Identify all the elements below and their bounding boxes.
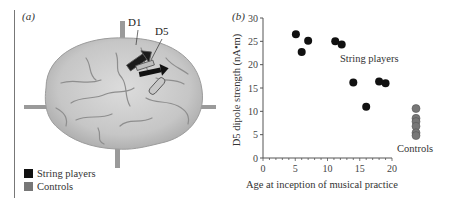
x-tick-label: 10 (323, 163, 333, 174)
dipole-label-d1: D1 (128, 16, 141, 28)
chart-canvas: 05101520253005101520 D5 dipole strength … (226, 0, 452, 200)
panel-divider (14, 10, 15, 198)
annotation-controls: Controls (397, 143, 433, 154)
data-point-string-player (382, 79, 390, 87)
annotation-string-players: String players (340, 53, 399, 64)
legend-swatch-string-players (24, 169, 33, 178)
data-point-control (412, 105, 420, 113)
scatter-chart: 05101520253005101520 D5 dipole strength … (226, 0, 452, 200)
chart-axes: 05101520253005101520 (248, 13, 397, 175)
dipole-label-d5: D5 (155, 25, 169, 37)
x-tick-label: 0 (261, 163, 266, 174)
data-point-string-player (304, 37, 312, 45)
chart-points (292, 30, 420, 139)
brain-illustration: D1 D5 (16, 8, 216, 168)
y-tick-label: 30 (248, 13, 258, 24)
data-point-control (412, 132, 420, 140)
legend-item-string-players: String players (24, 167, 96, 180)
y-tick-label: 25 (248, 36, 258, 47)
data-point-string-player (298, 48, 306, 56)
y-tick-label: 0 (253, 153, 258, 164)
brain-icon: D1 D5 (16, 8, 216, 168)
y-tick-label: 20 (248, 59, 258, 70)
y-axis-title: D5 dipole strength (nA•m) (231, 33, 243, 146)
y-tick-label: 10 (248, 106, 258, 117)
data-point-string-player (362, 103, 370, 111)
legend-swatch-controls (24, 182, 33, 191)
x-axis-title: Age at inception of musical practice (246, 179, 398, 190)
y-tick-label: 15 (248, 83, 258, 94)
legend: String players Controls (24, 167, 96, 193)
data-point-string-player (292, 30, 300, 38)
y-tick-label: 5 (253, 129, 258, 140)
x-tick-label: 20 (387, 163, 397, 174)
legend-item-controls: Controls (24, 180, 96, 193)
data-point-string-player (338, 41, 346, 49)
legend-label: Controls (37, 181, 73, 192)
x-tick-label: 5 (293, 163, 298, 174)
x-tick-label: 15 (355, 163, 365, 174)
legend-label: String players (37, 168, 96, 179)
data-point-string-player (349, 78, 357, 86)
